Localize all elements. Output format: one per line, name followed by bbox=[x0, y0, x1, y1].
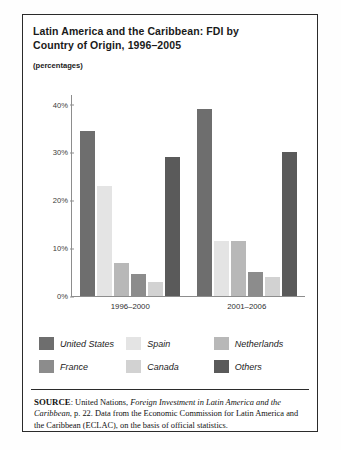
legend-item-others[interactable]: Others bbox=[214, 360, 297, 373]
bar-netherlands[interactable] bbox=[231, 241, 246, 296]
figure-frame: Latin America and the Caribbean: FDI by … bbox=[22, 14, 318, 432]
source-note: SOURCE: United Nations, Foreign Investme… bbox=[34, 397, 307, 431]
y-axis-tick: 30% bbox=[53, 148, 68, 157]
y-axis-tick: 20% bbox=[53, 196, 68, 205]
source-label: SOURCE bbox=[34, 397, 71, 407]
source-text-before: : United Nations, bbox=[71, 398, 131, 407]
plot-area: 0%10%20%30%40% 1996–20002001–2006 bbox=[71, 95, 305, 297]
bar-united-states[interactable] bbox=[197, 109, 212, 296]
x-axis-label: 1996–2000 bbox=[72, 302, 189, 311]
legend-label: United States bbox=[60, 339, 114, 349]
bar-france[interactable] bbox=[131, 274, 146, 296]
legend-item-spain[interactable]: Spain bbox=[126, 337, 209, 350]
legend-swatch bbox=[126, 337, 141, 350]
figure-page: Latin America and the Caribbean: FDI by … bbox=[0, 0, 341, 450]
bar-group: 1996–2000 bbox=[72, 95, 189, 296]
y-axis-tick: 10% bbox=[53, 244, 68, 253]
bar-france[interactable] bbox=[248, 272, 263, 296]
bar-others[interactable] bbox=[282, 152, 297, 296]
bar-netherlands[interactable] bbox=[114, 263, 129, 296]
source-divider bbox=[31, 389, 309, 390]
legend-item-france[interactable]: France bbox=[39, 360, 122, 373]
legend-swatch bbox=[126, 360, 141, 373]
x-axis-label: 2001–2006 bbox=[189, 302, 306, 311]
bar-united-states[interactable] bbox=[80, 131, 95, 296]
bar-spain[interactable] bbox=[214, 241, 229, 296]
legend-swatch bbox=[214, 360, 229, 373]
legend-label: Spain bbox=[147, 339, 170, 349]
chart-legend: United StatesSpainNetherlandsFranceCanad… bbox=[39, 337, 297, 373]
units-note: (percentages) bbox=[33, 61, 309, 70]
legend-swatch bbox=[214, 337, 229, 350]
legend-label: Others bbox=[235, 362, 262, 372]
legend-swatch bbox=[39, 337, 54, 350]
title-line-2: Country of Origin, 1996–2005 bbox=[33, 39, 181, 51]
bar-canada[interactable] bbox=[148, 282, 163, 296]
title-line-1: Latin America and the Caribbean: FDI by bbox=[33, 25, 239, 37]
page-title: Latin America and the Caribbean: FDI by … bbox=[33, 25, 309, 52]
y-axis-tick-mark bbox=[70, 296, 74, 297]
bar-canada[interactable] bbox=[265, 277, 280, 296]
y-axis-tick: 0% bbox=[57, 292, 68, 301]
y-axis-tick: 40% bbox=[53, 100, 68, 109]
legend-item-netherlands[interactable]: Netherlands bbox=[214, 337, 297, 350]
legend-label: Canada bbox=[147, 362, 179, 372]
bar-others[interactable] bbox=[165, 157, 180, 296]
source-text-after: , p. 22. Data from the Economic Commissi… bbox=[34, 409, 298, 429]
bar-group: 2001–2006 bbox=[189, 95, 306, 296]
legend-item-canada[interactable]: Canada bbox=[126, 360, 209, 373]
title-block: Latin America and the Caribbean: FDI by … bbox=[33, 25, 309, 70]
bar-spain[interactable] bbox=[97, 186, 112, 296]
legend-label: Netherlands bbox=[235, 339, 284, 349]
bar-groups: 1996–20002001–2006 bbox=[72, 95, 305, 296]
legend-label: France bbox=[60, 362, 88, 372]
bar-chart: 0%10%20%30%40% 1996–20002001–2006 bbox=[31, 87, 311, 319]
legend-swatch bbox=[39, 360, 54, 373]
legend-item-united-states[interactable]: United States bbox=[39, 337, 122, 350]
